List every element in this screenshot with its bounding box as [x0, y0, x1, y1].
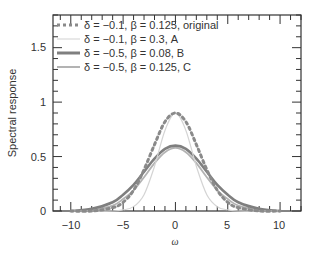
xtick-label-10: 10	[273, 219, 285, 231]
legend-label-c: δ = −0.5, β = 0.125, C	[84, 61, 191, 73]
curve-original	[71, 113, 280, 211]
ytick-label-1: 1	[40, 96, 46, 108]
xtick-label-5: 5	[224, 219, 230, 231]
curve-c	[71, 148, 280, 211]
legend-label-original: δ = −0.1, β = 0.125, original	[84, 19, 218, 31]
ytick-label-0: 0	[40, 205, 46, 217]
xtick-label-neg5: −5	[117, 219, 130, 231]
y-axis-label: Spectral response	[6, 69, 18, 158]
spectral-response-chart: 1.5 1 0.5 0 −10 −5 0 5 10 ω Spectral res…	[0, 0, 313, 255]
xtick-label-neg10: −10	[62, 219, 81, 231]
curve-a	[71, 113, 280, 211]
ytick-label-1.5: 1.5	[31, 41, 46, 53]
curves	[71, 113, 280, 211]
x-axis-label: ω	[171, 236, 178, 247]
legend-label-a: δ = −0.1, β = 0.3, A	[84, 33, 179, 45]
legend: δ = −0.1, β = 0.125, original δ = −0.1, …	[57, 19, 218, 73]
legend-label-b: δ = −0.5, β = 0.08, B	[84, 47, 184, 59]
ytick-label-0.5: 0.5	[31, 151, 46, 163]
curve-b	[71, 146, 280, 211]
xtick-label-0: 0	[172, 219, 178, 231]
